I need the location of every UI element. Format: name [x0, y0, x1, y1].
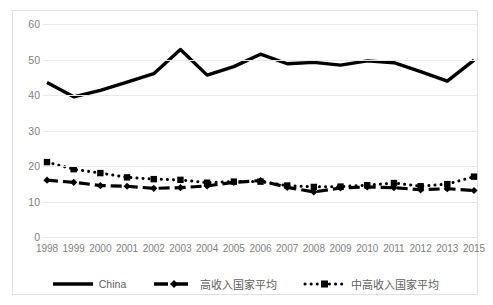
- gridline: [43, 202, 478, 203]
- gridline: [43, 60, 478, 61]
- x-axis-tick-label: 2007: [276, 243, 298, 255]
- x-axis-tick-label: 1998: [36, 243, 58, 255]
- x-axis-tick-label: 2000: [89, 243, 111, 255]
- x-axis-tick-label: 2010: [356, 243, 378, 255]
- y-axis-tick-label: 40: [12, 90, 40, 101]
- y-axis-tick-label: 0: [12, 232, 40, 243]
- square-marker: [284, 182, 290, 188]
- gridline: [43, 166, 478, 167]
- square-marker: [311, 184, 317, 190]
- diamond-marker: [43, 177, 50, 184]
- square-marker: [337, 183, 343, 189]
- x-axis-tick-label: 2002: [143, 243, 165, 255]
- gridline: [43, 237, 478, 238]
- x-axis-tick-label: 2013: [436, 243, 458, 255]
- diamond-marker: [97, 182, 104, 189]
- square-marker: [44, 159, 50, 165]
- x-axis-tick-label: 2012: [410, 243, 432, 255]
- diamond-marker: [150, 185, 157, 192]
- x-axis-tick-label: 1999: [63, 243, 85, 255]
- y-axis: 6050403020100: [8, 0, 40, 305]
- square-marker: [97, 170, 103, 176]
- x-axis-tick-label: 2005: [223, 243, 245, 255]
- gridline: [43, 131, 478, 132]
- square-marker: [151, 176, 157, 182]
- diamond-marker: [470, 187, 477, 194]
- legend-square-marker: [321, 281, 328, 288]
- legend-label: China: [99, 278, 126, 290]
- square-marker: [257, 178, 263, 184]
- x-axis-tick-label: 2001: [116, 243, 138, 255]
- line-chart-figure: 6050403020100 19981999200020012002200320…: [0, 0, 493, 305]
- series-3: [44, 159, 477, 190]
- legend-label: 高收入国家平均: [200, 276, 277, 292]
- legend-entry[interactable]: China: [51, 278, 126, 290]
- square-marker: [444, 181, 450, 187]
- gridline: [43, 24, 478, 25]
- y-axis-tick-label: 20: [12, 161, 40, 172]
- y-axis-tick-label: 10: [12, 197, 40, 208]
- x-axis-tick-label: 2011: [383, 243, 405, 255]
- dotted-square-swatch-icon: [303, 278, 347, 290]
- series-line: [47, 50, 474, 97]
- dashed-diamond-swatch-icon: [152, 278, 196, 290]
- chart-legend: China高收入国家平均中高收入国家平均: [12, 272, 478, 296]
- plot-area: [43, 24, 478, 237]
- diamond-marker: [123, 183, 130, 190]
- x-axis-tick-label: 2015: [463, 243, 485, 255]
- x-axis-tick-label: 2004: [196, 243, 218, 255]
- square-marker: [364, 182, 370, 188]
- y-axis-tick-label: 50: [12, 55, 40, 66]
- x-axis-tick-label: 2003: [169, 243, 191, 255]
- square-marker: [417, 183, 423, 189]
- square-marker: [231, 178, 237, 184]
- y-axis-tick-label: 30: [12, 126, 40, 137]
- square-marker: [204, 179, 210, 185]
- diamond-marker: [177, 184, 184, 191]
- legend-entry[interactable]: 中高收入国家平均: [303, 276, 439, 292]
- solid-line-swatch-icon: [51, 278, 95, 290]
- square-marker: [124, 174, 130, 180]
- square-marker: [471, 173, 477, 179]
- x-axis: 1998199920002001200220032004200520062007…: [43, 243, 478, 259]
- legend-diamond-marker: [170, 280, 178, 288]
- square-marker: [177, 177, 183, 183]
- gridline: [43, 95, 478, 96]
- y-axis-tick-label: 60: [12, 19, 40, 30]
- series-1: [47, 50, 474, 97]
- square-marker: [391, 180, 397, 186]
- x-axis-tick-label: 2006: [249, 243, 271, 255]
- diamond-marker: [70, 179, 77, 186]
- legend-label: 中高收入国家平均: [351, 276, 439, 292]
- legend-entry[interactable]: 高收入国家平均: [152, 276, 277, 292]
- x-axis-tick-label: 2008: [303, 243, 325, 255]
- x-axis-tick-label: 2009: [329, 243, 351, 255]
